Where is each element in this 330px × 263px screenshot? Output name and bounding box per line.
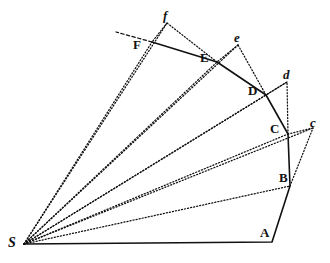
vertex-label-D: D: [248, 84, 257, 97]
force-e-E: [217, 45, 238, 62]
orbit-layer: [24, 42, 290, 244]
vertex-label-F: F: [133, 38, 141, 51]
vertex-label-E: E: [200, 51, 209, 64]
radius-S-B: [24, 186, 290, 244]
vertex-label-d: d: [283, 68, 290, 81]
radius-S-c: [24, 128, 313, 244]
tangent-C-d: [287, 82, 288, 134]
tangent-layer: [116, 23, 313, 186]
vertex-label-A: A: [260, 226, 269, 239]
force-f-F: [152, 23, 167, 42]
vertex-label-C: C: [270, 122, 279, 135]
tangent-E-f: [167, 23, 217, 62]
solid-orbit-path-S-A-B-C-D-E-F: [24, 42, 290, 244]
vertex-label-f: f: [163, 9, 167, 22]
vertex-label-S: S: [8, 236, 16, 250]
vertex-label-c: c: [310, 116, 316, 129]
figure-canvas: [0, 0, 330, 263]
vertex-label-B: B: [279, 171, 288, 184]
radius-S-e: [24, 45, 238, 244]
radius-S-d: [24, 82, 287, 244]
radius-S-C: [24, 134, 288, 244]
principia-figure: SABCDEFcdef: [0, 0, 330, 263]
radius-S-f: [24, 23, 167, 244]
tangent-B-c: [290, 128, 313, 186]
vertex-label-e: e: [234, 31, 240, 44]
